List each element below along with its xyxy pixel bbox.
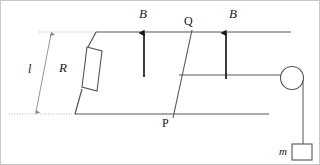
physics-diagram-figure: B B Q P R l m (0, 0, 320, 165)
label-mass-m: m (279, 146, 287, 157)
diagram-canvas (1, 1, 320, 165)
resistor-R (82, 47, 102, 91)
label-length-l: l (28, 63, 31, 75)
label-point-Q: Q (184, 15, 193, 27)
conducting-rod-PQ (173, 30, 192, 118)
branch-wire-upper (87, 32, 96, 49)
length-dimension-l (36, 34, 51, 112)
label-point-P: P (162, 117, 169, 129)
label-magnetic-field-right: B (229, 7, 237, 20)
pulley (281, 67, 304, 90)
label-magnetic-field-left: B (139, 7, 147, 20)
branch-wire-lower (75, 89, 82, 114)
hanging-mass-m (292, 144, 312, 160)
label-resistor-R: R (59, 61, 67, 74)
